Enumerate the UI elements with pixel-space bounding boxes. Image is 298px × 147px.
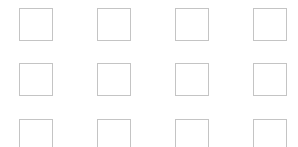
- grid-tile-r3-c2[interactable]: [97, 119, 131, 147]
- grid-tile-r1-c1[interactable]: [19, 8, 53, 41]
- grid-tile-r2-c4[interactable]: [253, 63, 287, 96]
- tile-grid: [0, 0, 298, 147]
- grid-tile-r3-c4[interactable]: [253, 119, 287, 147]
- grid-tile-r1-c4[interactable]: [253, 8, 287, 41]
- grid-tile-r2-c1[interactable]: [19, 63, 53, 96]
- grid-tile-r2-c2[interactable]: [97, 63, 131, 96]
- grid-tile-r1-c3[interactable]: [175, 8, 209, 41]
- grid-tile-r1-c2[interactable]: [97, 8, 131, 41]
- grid-tile-r3-c1[interactable]: [19, 119, 53, 147]
- grid-tile-r2-c3[interactable]: [175, 63, 209, 96]
- grid-tile-r3-c3[interactable]: [175, 119, 209, 147]
